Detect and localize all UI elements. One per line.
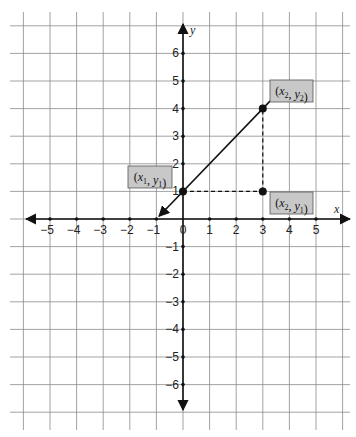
y-tick-mark bbox=[181, 328, 185, 332]
y-tick-label: −1 bbox=[165, 240, 179, 254]
y-tick-label: 4 bbox=[172, 102, 179, 116]
y-tick-label: 2 bbox=[172, 157, 179, 171]
y-tick-mark bbox=[181, 107, 185, 111]
x-tick-mark bbox=[101, 217, 105, 221]
x-tick-mark bbox=[208, 217, 212, 221]
point bbox=[259, 187, 267, 195]
x-tick-label: 4 bbox=[286, 223, 293, 237]
point-label: (x1, y1) bbox=[128, 166, 172, 190]
coordinate-plane: xy −5−4−3−2−1012345123456−1−2−3−4−5−6 (x… bbox=[0, 0, 356, 437]
point bbox=[179, 187, 187, 195]
point-labels: (x1, y1)(x2, y2)(x2, y1) bbox=[128, 80, 313, 216]
point bbox=[259, 105, 267, 113]
x-tick-label: 2 bbox=[233, 223, 240, 237]
x-tick-label: −3 bbox=[93, 223, 107, 237]
y-tick-label: −6 bbox=[165, 378, 179, 392]
x-tick-label: 5 bbox=[313, 223, 320, 237]
point-label: (x2, y2) bbox=[270, 80, 313, 104]
y-tick-mark bbox=[181, 300, 185, 304]
x-tick-label: −2 bbox=[120, 223, 134, 237]
x-tick-label: −4 bbox=[67, 223, 81, 237]
x-tick-label: −1 bbox=[147, 223, 161, 237]
y-tick-label: 6 bbox=[172, 46, 179, 60]
y-tick-mark bbox=[181, 383, 185, 387]
x-axis-label: x bbox=[333, 202, 340, 216]
x-tick-mark bbox=[48, 217, 52, 221]
y-tick-label: 3 bbox=[172, 129, 179, 143]
x-tick-label: 1 bbox=[206, 223, 213, 237]
y-tick-label: −4 bbox=[165, 322, 179, 336]
x-tick-mark bbox=[288, 217, 292, 221]
y-tick-label: −3 bbox=[165, 295, 179, 309]
y-tick-mark bbox=[181, 79, 185, 83]
y-axis-label: y bbox=[189, 23, 196, 37]
grid-lines bbox=[10, 12, 350, 430]
x-tick-label: −5 bbox=[40, 223, 54, 237]
y-tick-mark bbox=[181, 162, 185, 166]
x-tick-label: 3 bbox=[259, 223, 266, 237]
point-label: (x2, y1) bbox=[270, 192, 313, 216]
x-tick-mark bbox=[128, 217, 132, 221]
x-tick-mark bbox=[234, 217, 238, 221]
y-tick-mark bbox=[181, 272, 185, 276]
y-tick-mark bbox=[181, 134, 185, 138]
y-tick-mark bbox=[181, 355, 185, 359]
x-tick-label: 0 bbox=[180, 223, 187, 237]
y-tick-mark bbox=[181, 52, 185, 56]
y-tick-mark bbox=[181, 245, 185, 249]
x-tick-mark bbox=[261, 217, 265, 221]
y-tick-label: 5 bbox=[172, 74, 179, 88]
y-tick-label: −2 bbox=[165, 267, 179, 281]
y-tick-label: −5 bbox=[165, 350, 179, 364]
x-tick-mark bbox=[314, 217, 318, 221]
x-tick-mark bbox=[75, 217, 79, 221]
x-tick-mark bbox=[155, 217, 159, 221]
coordinate-plane-diagram: xy −5−4−3−2−1012345123456−1−2−3−4−5−6 (x… bbox=[0, 0, 356, 437]
